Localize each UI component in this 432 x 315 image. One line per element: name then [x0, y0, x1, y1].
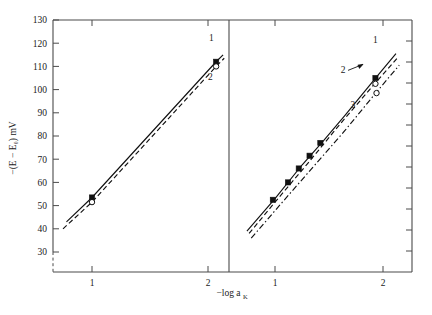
x-tick-label-right-panel: 1 [273, 278, 278, 288]
data-point-filled-square [318, 140, 323, 145]
data-point-open-circle [89, 199, 94, 204]
data-point-filled-square [285, 180, 290, 185]
curve-label-3-right-panel: 3 [350, 100, 355, 110]
y-tick-label: 90 [38, 108, 48, 118]
y-tick-label: 100 [33, 85, 48, 95]
y-tick-label: 110 [33, 62, 47, 72]
y-axis-title: −(E − E₀) mV [8, 121, 19, 174]
curve-label-1-left-panel: 1 [209, 33, 214, 43]
data-point-filled-square [270, 197, 275, 202]
data-point-open-circle [374, 90, 379, 95]
data-point-open-circle [213, 64, 218, 69]
x-tick-label-left-panel: 1 [90, 278, 95, 288]
x-tick-label-right-panel: 2 [381, 278, 386, 288]
annotation-arrow-head [358, 64, 363, 68]
y-tick-label: 80 [38, 131, 48, 141]
x-axis-title: −log a K [216, 288, 247, 300]
y-tick-label: 30 [38, 247, 48, 257]
y-tick-label: 50 [38, 201, 48, 211]
data-point-filled-square [307, 153, 312, 158]
y-tick-label: 40 [38, 224, 48, 234]
curve-label-2-left-panel: 2 [208, 72, 213, 82]
y-tick-label: 70 [38, 155, 48, 165]
y-tick-label: 120 [33, 39, 48, 49]
x-tick-label-left-panel: 2 [206, 278, 211, 288]
data-point-filled-square [373, 75, 378, 80]
series-line-2 [63, 58, 224, 229]
y-tick-label: 60 [38, 178, 48, 188]
chart-plot: 130120110100908070605040301212−(E − E₀) … [0, 0, 432, 315]
y-tick-label: 130 [33, 15, 48, 25]
figure-canvas: 130120110100908070605040301212−(E − E₀) … [0, 0, 432, 315]
data-point-open-circle [373, 81, 378, 86]
data-point-filled-square [296, 166, 301, 171]
curve-label-1-right-panel: 1 [373, 35, 378, 45]
curve-label-2-right-panel: 2 [341, 65, 346, 75]
